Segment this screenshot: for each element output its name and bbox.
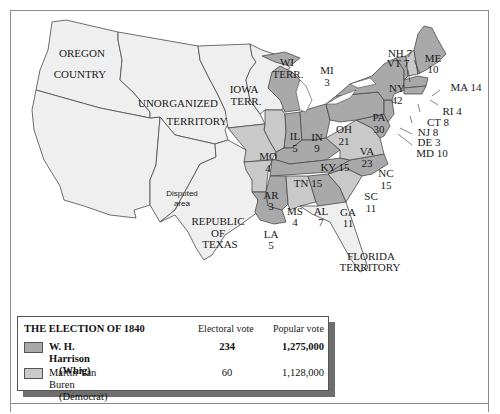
label-disputed: Disputed [166,189,198,198]
votes-me: 10 [428,63,440,75]
popular-vote: 1,128,000 [278,367,328,378]
leader-de [400,128,412,134]
electoral-vote: 60 [212,367,242,378]
candidate-name: Martin Van Buren [49,367,96,390]
label-unorganized: UNORGANIZED [138,97,218,109]
votes-mi: 3 [324,76,330,88]
header-popular-vote: Popular vote [273,323,324,334]
header-electoral-vote: Electoral vote [198,323,254,334]
swatch-harrison [24,342,43,353]
label-disputed-2: area [174,199,191,208]
votes-al: 7 [318,216,324,228]
votes-il: 5 [292,142,298,154]
label-ky: KY 15 [320,161,350,173]
electoral-vote: 234 [212,341,242,352]
candidate-name: W. H. Harrison [49,341,90,364]
votes-ar: 3 [268,200,274,212]
label-mi: MI [320,64,334,76]
leader-ri [430,100,438,105]
label-mo: MO [259,150,277,162]
popular-vote: 1,275,000 [278,341,328,352]
label-md: MD 10 [416,147,448,159]
label-ma: MA 14 [451,81,482,93]
leader-ma [432,90,440,96]
label-il: IL [290,130,301,142]
votes-va: 23 [362,157,374,169]
leader-nj [410,116,412,123]
label-tn: TN 15 [294,177,323,189]
votes-sc: 11 [366,202,377,214]
leader-ct [418,104,420,112]
legend: THE ELECTION OF 1840 Electoral vote Popu… [17,316,329,391]
label-sc: SC [364,190,377,202]
label-unorganized-2: TERRITORY [167,115,228,127]
label-va: VA [360,145,375,157]
label-oregon: OREGON [59,47,105,59]
label-florida-2: TERRITORY [340,261,401,273]
label-nc: NC [378,167,393,179]
label-oh: OH [336,123,352,135]
votes-in: 9 [314,142,320,154]
label-wi-2: TERR. [273,68,304,80]
votes-pa: 30 [374,123,386,135]
votes-la: 5 [268,239,274,251]
votes-nc: 15 [381,179,393,191]
label-texas-3: TEXAS [202,238,237,250]
label-texas: REPUBLIC [191,215,244,227]
candidate-van-buren: Martin Van Buren (Democrat) [49,367,107,403]
leader-md [398,134,412,145]
label-ny: NY [389,82,405,94]
votes-ms: 4 [292,216,298,228]
label-iowa-2: TERR. [231,95,262,107]
legend-title: THE ELECTION OF 1840 [24,323,145,334]
candidate-party: (Democrat) [49,391,107,403]
label-iowa: IOWA [230,83,259,95]
swatch-van-buren [24,368,43,379]
votes-mo: 4 [265,162,271,174]
votes-ny: 42 [392,94,403,106]
legend-box: THE ELECTION OF 1840 Electoral vote Popu… [17,316,329,391]
votes-oh: 21 [339,135,350,147]
label-vt: VT 7 [387,57,410,69]
label-pa: PA [372,111,385,123]
votes-ga: 11 [343,217,354,229]
label-wi: WI [280,56,294,68]
label-oregon-2: COUNTRY [54,68,107,80]
